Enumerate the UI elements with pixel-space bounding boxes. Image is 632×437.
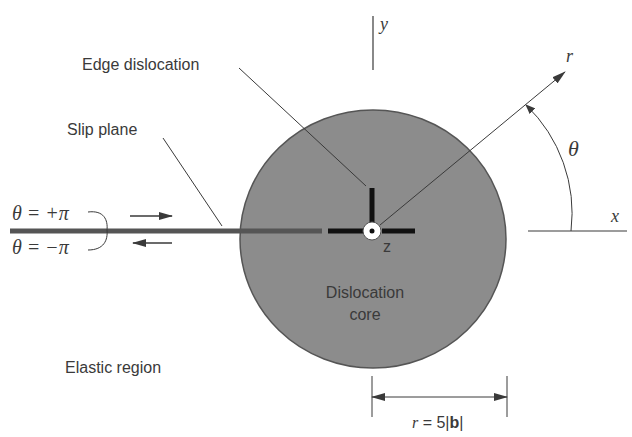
edge-dislocation-label: Edge dislocation: [82, 56, 199, 73]
radius-label: r = 5|b|: [412, 414, 463, 431]
y-axis-label: y: [378, 14, 388, 34]
theta-arc: [526, 105, 572, 231]
elastic-region-label: Elastic region: [65, 359, 161, 376]
diagram-canvas: y z r x θ Edge dislocation Slip plane θ …: [0, 0, 632, 437]
slip-plane-leader: [163, 138, 222, 226]
x-axis-label: x: [610, 206, 619, 226]
slip-plane-label: Slip plane: [67, 121, 137, 138]
core-label-line1: Dislocation: [326, 284, 404, 301]
core-label-line2: core: [349, 306, 380, 323]
r-axis-label: r: [566, 46, 574, 66]
dislocation-diagram: y z r x θ Edge dislocation Slip plane θ …: [0, 0, 632, 437]
z-axis-label: z: [383, 238, 391, 255]
theta-minus-pi-label: θ = −π: [12, 236, 70, 258]
theta-plus-pi-label: θ = +π: [12, 202, 70, 224]
theta-label: θ: [568, 136, 579, 161]
z-axis-dot: [370, 229, 375, 234]
